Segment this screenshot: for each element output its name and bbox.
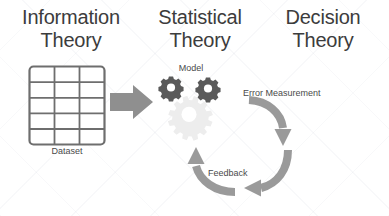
gear-right-icon [195,77,220,102]
error-measurement-arrow-icon [249,100,292,146]
model-label: Model [160,63,222,74]
diagram-artwork [0,0,389,216]
error-measurement-label: Error Measurement [243,88,353,99]
dataset-label: Dataset [28,146,106,157]
diagram-canvas: Information Theory Statistical Theory De… [0,0,389,216]
flow-arrow-right-icon [110,85,153,119]
dataset-table-icon [30,67,105,145]
feedback-label: Feedback [208,168,270,179]
gear-left-icon [158,76,183,101]
dataset-table-outline [30,67,105,145]
